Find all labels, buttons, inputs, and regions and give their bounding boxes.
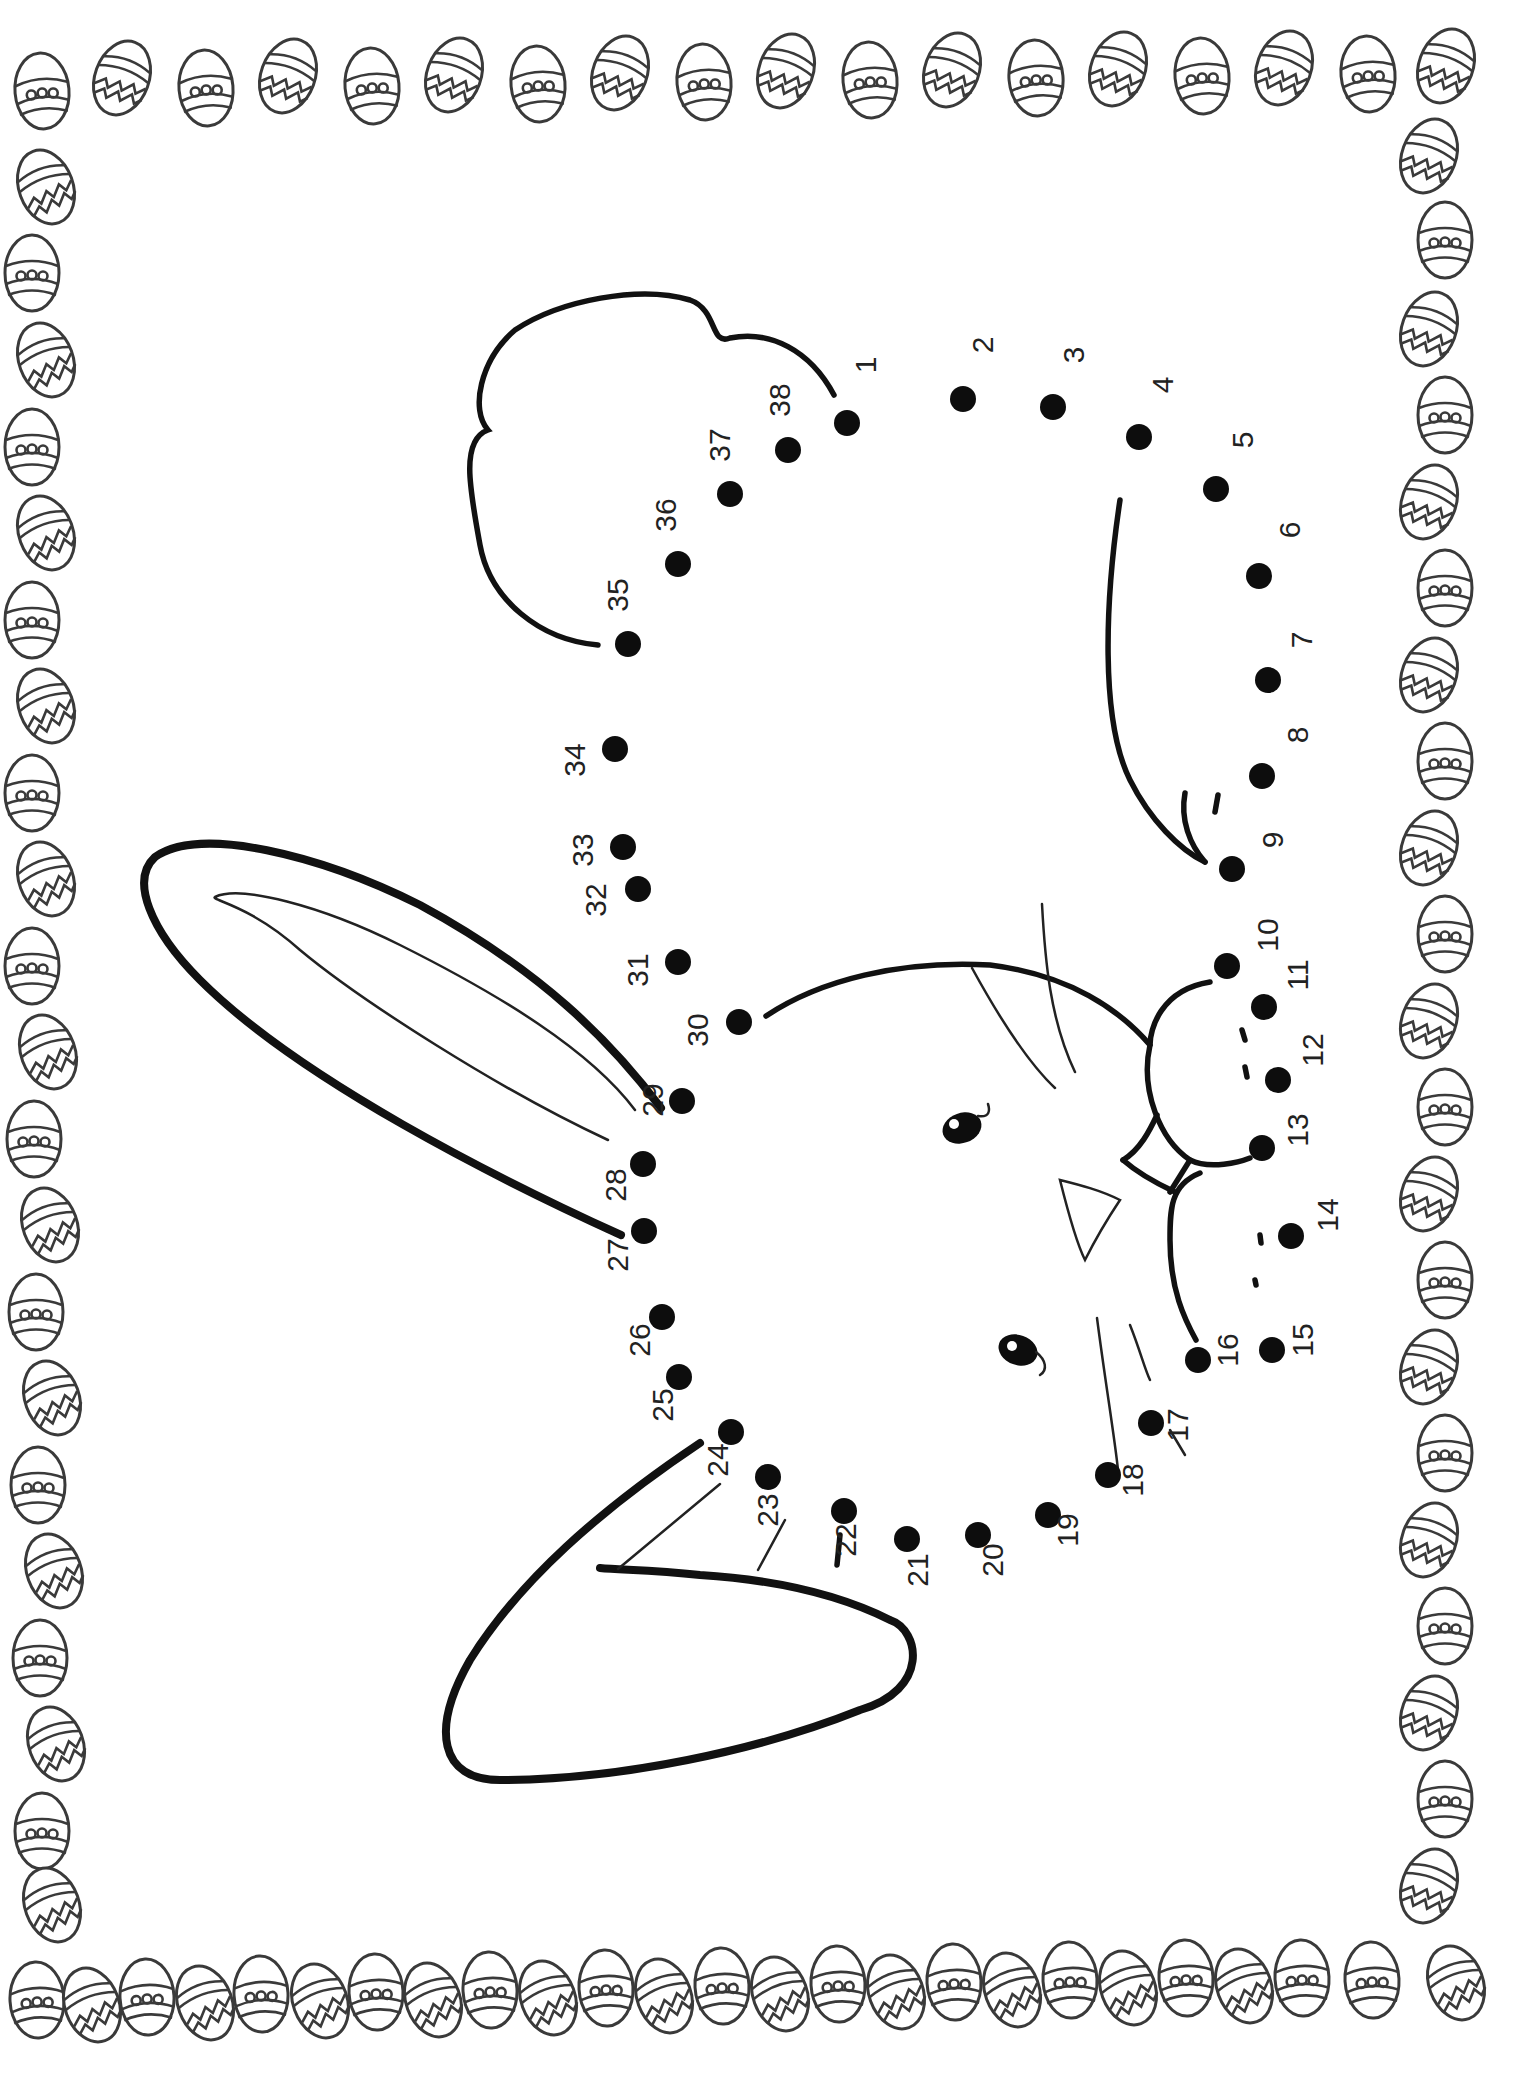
dot-number-label: 6: [1273, 522, 1306, 539]
dot-19[interactable]: 19: [1035, 1502, 1084, 1547]
egg-border-right: [1391, 111, 1472, 1931]
dot-marker[interactable]: [602, 736, 628, 762]
dot-marker[interactable]: [665, 551, 691, 577]
dot-number-label: 26: [623, 1323, 656, 1356]
dot-marker[interactable]: [726, 1009, 752, 1035]
dot-26[interactable]: 26: [623, 1304, 675, 1357]
dot-6[interactable]: 6: [1246, 522, 1306, 589]
dot-13[interactable]: 13: [1249, 1113, 1314, 1161]
dot-marker[interactable]: [1203, 476, 1229, 502]
dot-17[interactable]: 17: [1138, 1408, 1194, 1441]
dot-marker[interactable]: [665, 949, 691, 975]
dot-marker[interactable]: [1126, 424, 1152, 450]
dot-number-label: 7: [1285, 632, 1318, 649]
dot-marker[interactable]: [630, 1151, 656, 1177]
dot-marker[interactable]: [831, 1498, 857, 1524]
dot-marker[interactable]: [610, 834, 636, 860]
dot-marker[interactable]: [718, 1419, 744, 1445]
dot-8[interactable]: 8: [1249, 727, 1314, 789]
dot-35[interactable]: 35: [601, 578, 641, 657]
dot-29[interactable]: 29: [636, 1083, 695, 1116]
dot-14[interactable]: 14: [1278, 1198, 1344, 1249]
dot-marker[interactable]: [1249, 763, 1275, 789]
dot-marker[interactable]: [1185, 1347, 1211, 1373]
bunny-mouth-line-3: [1123, 1160, 1175, 1192]
dot-number-label: 37: [703, 428, 736, 461]
dot-marker[interactable]: [1246, 563, 1272, 589]
dot-4[interactable]: 4: [1126, 377, 1179, 450]
dot-marker[interactable]: [625, 876, 651, 902]
dot-number-label: 20: [976, 1543, 1009, 1576]
dot-number-label: 36: [649, 498, 682, 531]
dot-marker[interactable]: [1040, 394, 1066, 420]
dot-22[interactable]: 22: [829, 1498, 862, 1557]
dot-marker[interactable]: [666, 1364, 692, 1390]
dot-number-label: 22: [829, 1523, 862, 1556]
dot-32[interactable]: 32: [579, 876, 651, 917]
egg-border-left: [5, 142, 94, 1950]
dot-37[interactable]: 37: [703, 428, 743, 507]
tick-mark: [1260, 1235, 1261, 1243]
dot-18[interactable]: 18: [1095, 1462, 1149, 1497]
dot-marker[interactable]: [950, 386, 976, 412]
dot-number-label: 19: [1051, 1513, 1084, 1546]
dot-marker[interactable]: [1214, 953, 1240, 979]
bunny-nose: [1060, 1180, 1120, 1260]
bunny-muzzle-upper: [1147, 982, 1250, 1165]
dot-marker[interactable]: [717, 481, 743, 507]
dot-36[interactable]: 36: [649, 498, 691, 577]
dot-5[interactable]: 5: [1203, 432, 1259, 502]
dot-3[interactable]: 3: [1040, 347, 1090, 420]
dot-9[interactable]: 9: [1219, 832, 1289, 882]
dot-marker[interactable]: [894, 1526, 920, 1552]
dot-marker[interactable]: [1219, 856, 1245, 882]
bunny-eye-bottom: [994, 1329, 1045, 1375]
dot-marker[interactable]: [1255, 667, 1281, 693]
dot-number-label: 24: [701, 1443, 734, 1476]
dot-marker[interactable]: [615, 631, 641, 657]
dot-marker[interactable]: [631, 1218, 657, 1244]
dot-38[interactable]: 38: [763, 383, 801, 463]
dot-23[interactable]: 23: [751, 1464, 784, 1527]
dot-number-label: 33: [566, 833, 599, 866]
dot-number-label: 16: [1211, 1333, 1244, 1366]
dot-number-label: 8: [1281, 727, 1314, 744]
dot-marker[interactable]: [1278, 1223, 1304, 1249]
bunny-tail: [470, 294, 834, 645]
dot-number-label: 21: [901, 1553, 934, 1586]
dot-marker[interactable]: [755, 1464, 781, 1490]
bunny-ear-bottom-fold: [618, 1484, 720, 1569]
dot-marker[interactable]: [1251, 994, 1277, 1020]
dot-33[interactable]: 33: [566, 833, 636, 866]
dot-number-label: 30: [681, 1013, 714, 1046]
bunny-ear-top-inner: [215, 894, 635, 1140]
dot-number-label: 35: [601, 578, 634, 611]
dot-21[interactable]: 21: [894, 1526, 934, 1587]
dot-number-label: 32: [579, 883, 612, 916]
dot-1[interactable]: 1: [834, 357, 882, 436]
dot-2[interactable]: 2: [950, 337, 999, 412]
dot-25[interactable]: 25: [646, 1364, 692, 1422]
dot-11[interactable]: 11: [1251, 959, 1314, 1020]
dot-marker[interactable]: [669, 1088, 695, 1114]
dot-marker[interactable]: [1259, 1337, 1285, 1363]
dot-20[interactable]: 20: [965, 1522, 1009, 1577]
dot-number-label: 34: [558, 743, 591, 776]
dot-marker[interactable]: [775, 437, 801, 463]
dot-number-label: 1: [849, 357, 882, 374]
dot-31[interactable]: 31: [621, 949, 691, 987]
dot-marker[interactable]: [1249, 1135, 1275, 1161]
dot-12[interactable]: 12: [1265, 1033, 1329, 1093]
dot-number-label: 38: [763, 383, 796, 416]
dot-marker[interactable]: [1265, 1067, 1291, 1093]
dot-marker[interactable]: [834, 410, 860, 436]
dot-10[interactable]: 10: [1214, 918, 1284, 979]
dot-34[interactable]: 34: [558, 736, 628, 777]
egg-border-bottom: [8, 1938, 1494, 2050]
tick-mark: [1255, 1280, 1256, 1285]
dot-15[interactable]: 15: [1259, 1323, 1319, 1363]
dot-30[interactable]: 30: [681, 1009, 752, 1047]
dot-7[interactable]: 7: [1255, 632, 1318, 693]
dot-24[interactable]: 24: [701, 1419, 744, 1477]
dot-28[interactable]: 28: [599, 1151, 656, 1202]
